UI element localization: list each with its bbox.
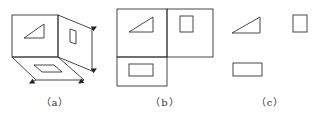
front-view-frame [117, 9, 167, 57]
side-rectangle-shape [70, 29, 76, 44]
square-shape [180, 16, 193, 32]
panel-label-c: （c） [256, 94, 285, 109]
square-shape [293, 15, 307, 32]
unfold-arrow-vertical-bottom [92, 69, 96, 71]
panel-c-views [232, 15, 307, 76]
triangle-shape [232, 17, 260, 33]
front-plane [12, 15, 58, 57]
side-plane [58, 15, 92, 71]
panel-b-unfolded [117, 9, 213, 86]
rectangle-shape [129, 64, 153, 76]
unfold-arrow-vertical [92, 27, 96, 29]
bottom-rectangle-shape [34, 65, 62, 72]
panel-a-isometric [12, 15, 96, 83]
panel-label-b: （b） [150, 94, 179, 109]
triangle-shape [129, 17, 153, 32]
rectangle-shape [233, 63, 262, 76]
bottom-plane [12, 57, 84, 80]
triangle-shape [24, 24, 44, 38]
unfold-arrow-left [30, 80, 36, 83]
panel-label-a: （a） [41, 94, 70, 109]
top-view-frame [117, 57, 167, 86]
